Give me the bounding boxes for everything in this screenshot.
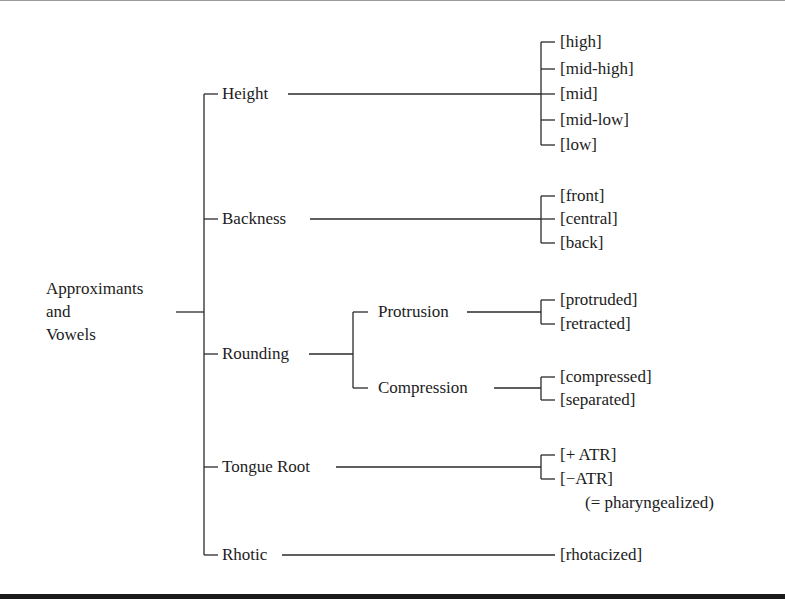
bottom-rule bbox=[0, 594, 785, 599]
value-label: [+ ATR] bbox=[558, 446, 618, 464]
root-label-line: Vowels bbox=[46, 323, 143, 346]
value-label: [high] bbox=[558, 33, 604, 51]
feature-tongue-root-label: Tongue Root bbox=[220, 458, 312, 476]
value-label: [front] bbox=[558, 187, 606, 205]
root-label: Approximants and Vowels bbox=[46, 277, 143, 346]
value-label: [protruded] bbox=[558, 291, 639, 309]
feature-height-label: Height bbox=[220, 85, 270, 103]
feature-tree-diagram: Approximants and Vowels Height Backness … bbox=[0, 0, 785, 607]
value-label: [low] bbox=[558, 136, 599, 154]
root-label-line: and bbox=[46, 300, 143, 323]
subfeature-protrusion-label: Protrusion bbox=[376, 303, 451, 321]
value-label: [rhotacized] bbox=[558, 546, 644, 564]
value-note: (= pharyngealized) bbox=[583, 494, 716, 512]
value-label: [separated] bbox=[558, 391, 638, 409]
value-label: [central] bbox=[558, 210, 620, 228]
root-label-line: Approximants bbox=[46, 277, 143, 300]
feature-rounding-label: Rounding bbox=[220, 345, 291, 363]
value-label: [−ATR] bbox=[558, 470, 615, 488]
value-label: [mid] bbox=[558, 85, 600, 103]
value-label: [retracted] bbox=[558, 315, 633, 333]
value-label: [mid-high] bbox=[558, 60, 636, 78]
value-label: [mid-low] bbox=[558, 111, 631, 129]
value-label: [compressed] bbox=[558, 368, 654, 386]
value-label: [back] bbox=[558, 234, 605, 252]
subfeature-compression-label: Compression bbox=[376, 379, 470, 397]
feature-rhotic-label: Rhotic bbox=[220, 546, 269, 564]
feature-backness-label: Backness bbox=[220, 210, 288, 228]
